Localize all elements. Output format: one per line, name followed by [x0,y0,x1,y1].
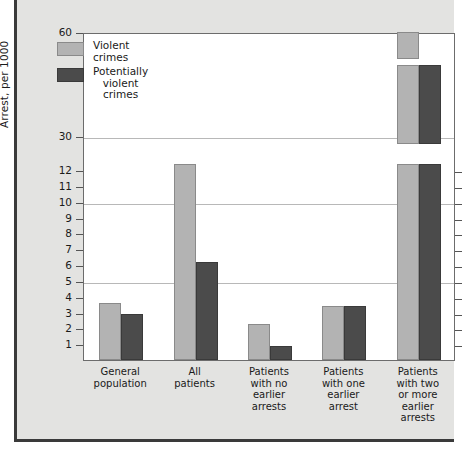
bar-segment [397,32,419,59]
y-tick-mark-right [455,172,462,173]
bar-segment [322,306,344,360]
y-tick-mark-right [455,251,462,252]
legend-swatch-dark [57,68,84,82]
bar-segment [174,164,196,360]
y-tick-mark [76,234,83,235]
y-tick-label: 12 [59,164,72,176]
bar-group [174,34,218,360]
bar-potentially-violent [196,32,218,360]
bar-segment [344,306,366,360]
y-tick-mark-right [455,315,462,316]
bar-potentially-violent [344,32,366,360]
y-tick-mark [76,219,83,220]
bar-violent [248,32,270,360]
bar-group [248,34,292,360]
x-axis-label: Patients with no earlier arrests [232,366,306,412]
y-tick-mark [76,282,83,283]
y-tick-label: 60 [59,26,72,38]
bar-segment [121,314,143,360]
figure-panel: Arrest, per 1000 6030121110987654321 Gen… [14,0,454,442]
y-tick-label: 5 [65,275,72,287]
y-tick-mark-right [455,204,462,205]
y-tick-mark-right [455,330,462,331]
y-tick-mark-right [455,188,462,189]
legend-swatch-light [57,42,84,56]
bar-segment [248,324,270,360]
bar-segment [419,65,441,144]
legend-label: Potentially violent crimes [93,66,148,101]
bar-violent [174,32,196,360]
y-tick-label: 2 [65,322,72,334]
y-tick-mark [76,314,83,315]
y-tick-label: 1 [65,338,72,350]
bar-group [397,34,441,360]
y-tick-mark-right [455,220,462,221]
x-axis-label: General population [83,366,157,389]
x-axis-label: Patients with one earlier arrest [306,366,380,412]
bar-segment [397,65,419,144]
y-tick-label: 4 [65,291,72,303]
y-tick-label: 3 [65,307,72,319]
y-tick-mark [76,203,83,204]
y-tick-label: 8 [65,227,72,239]
y-tick-mark-right [455,299,462,300]
bar-group [322,34,366,360]
y-tick-mark-right [455,267,462,268]
x-axis-label: Patients with two or more earlier arrest… [381,366,455,424]
legend-label: Violent crimes [93,40,129,63]
y-tick-mark [76,250,83,251]
y-tick-mark [76,171,83,172]
y-tick-mark [76,298,83,299]
y-tick-mark [76,345,83,346]
y-tick-mark-right [455,346,462,347]
y-tick-label: 7 [65,243,72,255]
bar-segment [99,303,121,360]
bar-violent [322,32,344,360]
bar-segment [270,346,292,360]
x-axis-label: All patients [157,366,231,389]
y-tick-mark-right [455,235,462,236]
y-tick-mark [76,137,83,138]
bar-potentially-violent [419,32,441,360]
bar-segment [196,262,218,360]
bar-segment [419,164,441,360]
y-tick-mark-right [455,283,462,284]
y-tick-label: 10 [59,196,72,208]
y-axis-title: Arrest, per 1000 [0,0,10,128]
y-tick-mark [76,187,83,188]
y-tick-mark [76,33,83,34]
y-tick-label: 6 [65,259,72,271]
y-tick-label: 30 [59,130,72,142]
bar-violent [397,32,419,360]
y-tick-mark [76,329,83,330]
bar-segment [397,164,419,360]
y-tick-mark [76,266,83,267]
bar-potentially-violent [270,32,292,360]
y-tick-label: 11 [59,180,72,192]
y-tick-label: 9 [65,212,72,224]
